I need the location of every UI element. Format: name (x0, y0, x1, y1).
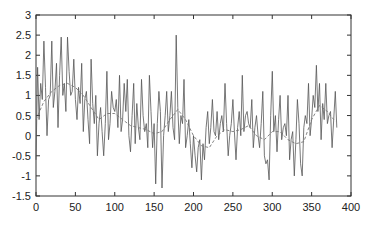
x-tick-label: 50 (69, 201, 81, 213)
y-tick-label: -1 (21, 170, 31, 182)
line-chart: -1.5-1-0.500.511.522.53 0501001502002503… (0, 0, 376, 226)
x-tick-label: 400 (342, 201, 360, 213)
y-tick-label: -1.5 (12, 190, 31, 202)
y-tick-label: 1 (25, 89, 31, 101)
x-tick-label: 350 (302, 201, 320, 213)
y-tick-label: 1.5 (16, 69, 31, 81)
x-tick-label: 100 (106, 201, 124, 213)
y-tick-label: 3 (25, 9, 31, 21)
x-tick-label: 250 (224, 201, 242, 213)
y-tick-label: 0.5 (16, 110, 31, 122)
plot-frame (36, 15, 351, 196)
x-tick-label: 150 (145, 201, 163, 213)
x-tick-label: 0 (33, 201, 39, 213)
x-tick-label: 300 (263, 201, 281, 213)
y-tick-label: 2.5 (16, 29, 31, 41)
y-tick-label: -0.5 (12, 150, 31, 162)
y-tick-label: 0 (25, 130, 31, 142)
y-tick-label: 2 (25, 49, 31, 61)
x-tick-label: 200 (184, 201, 202, 213)
